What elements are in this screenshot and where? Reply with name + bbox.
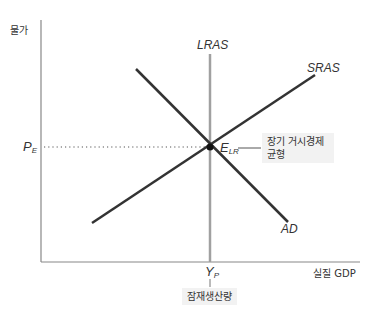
y-axis-label: 물가 (10, 22, 28, 37)
equilibrium-note-line2: 균형 (267, 148, 329, 161)
potential-output-box: 잠재생산량 (182, 288, 237, 305)
lras-label: LRAS (197, 38, 228, 52)
sras-label: SRAS (307, 61, 340, 75)
yp-tick-label: YP (205, 264, 219, 280)
elr-main: E (220, 140, 229, 155)
equilibrium-note-box: 장기 거시경제 균형 (262, 133, 334, 163)
potential-output-label: 잠재생산량 (187, 291, 232, 302)
pe-tick-label: PE (23, 139, 37, 155)
equilibrium-note-line1: 장기 거시경제 (267, 135, 329, 148)
pe-sub: E (32, 146, 37, 155)
pe-main: P (23, 139, 32, 154)
elr-sub: LR (229, 147, 239, 156)
x-axis-label: 실질 GDP (313, 265, 356, 280)
yp-sub: P (214, 271, 219, 280)
elr-label: ELR (220, 140, 239, 156)
ad-label: AD (281, 222, 298, 236)
equilibrium-point (207, 144, 214, 151)
yp-main: Y (205, 264, 214, 279)
